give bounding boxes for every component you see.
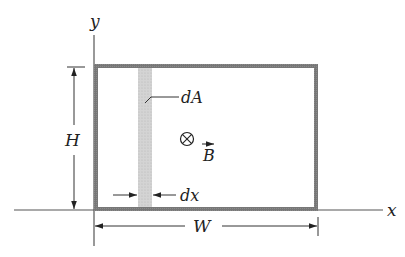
x-axis-label: x (387, 200, 397, 220)
area-strip (138, 68, 152, 207)
y-axis-label: y (89, 11, 100, 31)
field-vector-label: B (202, 146, 215, 165)
field-into-page-icon (181, 133, 194, 146)
strip-area-label: dA (181, 88, 203, 107)
width-label: W (193, 216, 212, 236)
diagram-canvas: y x H W dx dA B (0, 0, 405, 257)
rectangular-loop (96, 66, 316, 209)
strip-width-label: dx (180, 186, 199, 205)
diagram-svg: y x H W dx dA B (0, 0, 405, 257)
height-label: H (64, 130, 81, 150)
